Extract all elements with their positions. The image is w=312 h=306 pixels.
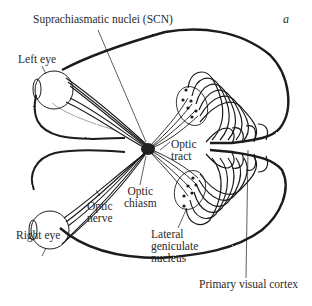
left-eye-globe [33, 71, 73, 109]
optic-chiasm-label-line2: chiasm [124, 197, 157, 209]
lgn-label-line1: Lateral [151, 228, 198, 240]
lower-optic-radiation [186, 153, 268, 224]
lgn-label-line3: nucleus [151, 252, 198, 264]
right-eye-label: Right eye [16, 229, 60, 241]
optic-chiasm-label: Optic chiasm [124, 185, 157, 209]
lgn-label: Lateral geniculate nucleus [151, 228, 198, 264]
optic-tract-label-line1: Optic [171, 138, 197, 150]
optic-nerve-label-line1: Optic [87, 200, 113, 212]
optic-chiasm-label-line1: Optic [124, 185, 157, 197]
primary-visual-cortex-label: Primary visual cortex [199, 278, 298, 290]
optic-nerve-label: Optic nerve [87, 200, 113, 224]
visual-pathway-diagram: Suprachiasmatic nuclei (SCN) a Left eye … [0, 0, 312, 306]
left-eye-label: Left eye [18, 53, 56, 65]
lgn-label-line2: geniculate [151, 240, 198, 252]
optic-tract-label-line2: tract [171, 150, 197, 162]
optic-nerve-label-line2: nerve [87, 212, 113, 224]
optic-tract-label: Optic tract [171, 138, 197, 162]
panel-letter: a [283, 13, 289, 25]
upper-optic-radiation [188, 72, 268, 143]
scn-label: Suprachiasmatic nuclei (SCN) [33, 13, 173, 25]
